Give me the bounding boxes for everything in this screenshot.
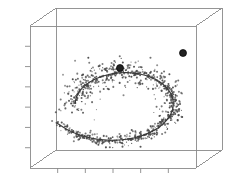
plot-background [0, 0, 227, 187]
chart-figure [0, 0, 227, 187]
spiral-scatter-svg [0, 0, 227, 187]
